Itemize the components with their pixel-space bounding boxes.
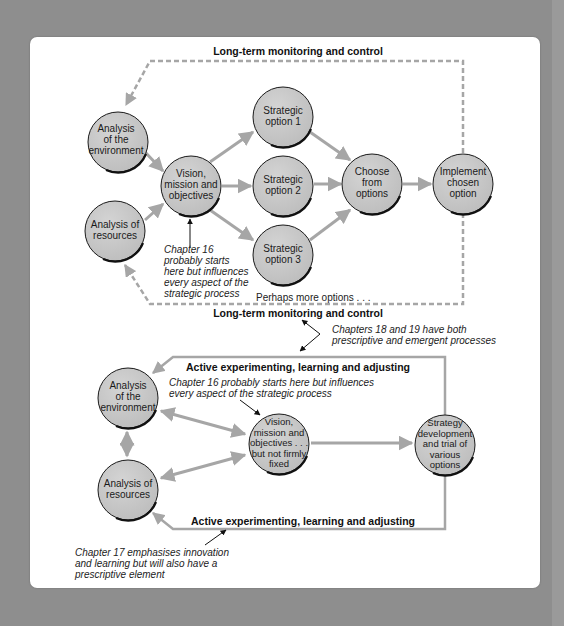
node-choose-from-options: Choosefromoptions (342, 154, 402, 215)
node-strategic-option-3: Strategicoption 3 (253, 225, 313, 286)
bottom-diagram: Analysisof theenvironment Analysis ofres… (74, 357, 475, 580)
node-vision-not-fixed: Vision,mission andobjectives . . .but no… (249, 414, 309, 475)
note-chapter-17: Chapter 17 emphasises innovation and lea… (74, 547, 232, 580)
arrow-vision-to-opt3 (210, 210, 253, 240)
node-vision-mission-objectives: Vision,mission andobjectives (161, 156, 221, 217)
more-options-label: Perhaps more options . . . (256, 292, 371, 303)
arrow-env-vision-bidirectional (161, 411, 245, 434)
node-implement-chosen-option: Implementchosenoption (433, 154, 493, 215)
node-strategic-option-2: Strategicoption 2 (253, 156, 313, 217)
svg-text:Strategicoption 3: Strategicoption 3 (263, 243, 302, 265)
annotation-arrow-ch17 (205, 530, 226, 545)
node-strategy-development: Strategydevelopmentand trial ofvariousop… (415, 415, 475, 476)
node-analysis-resources: Analysis ofresources (85, 201, 145, 262)
svg-text:Analysis ofresources: Analysis ofresources (104, 478, 153, 500)
arrow-res-vision-bidirectional (161, 455, 245, 478)
middle-annotation: Chapters 18 and 19 have both prescriptiv… (300, 320, 496, 351)
arrow-vision-to-opt1 (210, 132, 253, 162)
annotation-arrow-ch18-19 (302, 320, 320, 334)
svg-text:Analysis ofresources: Analysis ofresources (91, 219, 140, 241)
annotation-arrow-ch18-19b (300, 334, 320, 351)
svg-text:Strategicoption 2: Strategicoption 2 (263, 174, 302, 196)
bottom-loop-title: Active experimenting, learning and adjus… (186, 361, 410, 373)
note-chapter-16-top: Chapter 16 probably starts here but infl… (163, 244, 251, 299)
strategy-process-diagram: Analysisof theenvironment Analysis ofres… (0, 0, 564, 626)
arrow-env-to-vision (145, 152, 163, 171)
node-analysis-resources-2: Analysis ofresources (98, 460, 158, 521)
note-chapter-16-bottom: Chapter 16 probably starts here but infl… (169, 377, 377, 399)
arrow-opt1-to-choose (310, 132, 350, 160)
node-analysis-environment-2: Analysisof theenvironment (98, 368, 158, 429)
node-analysis-environment: Analysisof theenvironment (88, 112, 148, 173)
annotation-arrow-ch16-bottom (240, 400, 260, 415)
arrow-res-to-vision (145, 204, 163, 220)
svg-text:Strategicoption 1: Strategicoption 1 (263, 105, 302, 127)
node-strategic-option-1: Strategicoption 1 (253, 87, 313, 148)
top-loop-title-bottom: Long-term monitoring and control (213, 307, 383, 319)
top-diagram: Analysisof theenvironment Analysis ofres… (85, 45, 493, 319)
arrow-opt3-to-choose (310, 210, 350, 240)
bottom-loop-title-bottom: Active experimenting, learning and adjus… (191, 515, 415, 527)
top-loop-title: Long-term monitoring and control (213, 45, 383, 57)
svg-text:Chapters 18 and 19 have both: Chapters 18 and 19 have both prescriptiv… (331, 324, 496, 346)
